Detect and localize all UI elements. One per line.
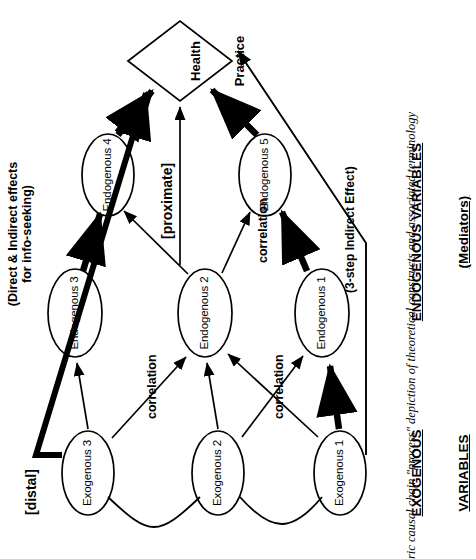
node-label-exogenous-2: Exogenous 2 xyxy=(211,433,224,513)
node-label-exogenous-1: Exogenous 1 xyxy=(333,433,346,513)
stage-tag-proximate: [proximate] xyxy=(160,163,176,239)
group-label-exogenous-line2: VARIABLES xyxy=(456,403,472,543)
note-info-seeking: (Direct & Indirect effects for info-seek… xyxy=(6,119,35,349)
outcome-node-label-line1: Health xyxy=(189,23,204,99)
edge-end2-to-end4 xyxy=(124,211,188,274)
edge-exo3-to-end3 xyxy=(77,363,88,429)
edge-exo2-to-end2 xyxy=(207,363,218,429)
edge-label-correlation-exo2-exo1: correlation xyxy=(272,354,286,419)
edge-end2-to-end5 xyxy=(222,212,250,273)
group-label-endogenous: ENDOGENOUS VARIABLES (Mediators) xyxy=(378,117,476,347)
edge-exo1-to-end1 xyxy=(330,366,339,429)
figure-caption: ric causal chain "process" depiction of … xyxy=(404,0,418,559)
note-three-step-indirect: (3-step Indirect Effect) xyxy=(344,166,357,293)
edge-label-correlation-end2-end1: correlation xyxy=(256,198,270,263)
outcome-node-label: Health Practice xyxy=(160,23,276,99)
node-label-endogenous-3: Endogenous 3 xyxy=(68,270,81,356)
group-label-endogenous-line2: (Mediators) xyxy=(456,117,472,347)
group-label-exogenous: EXOGENOUS VARIABLES xyxy=(378,403,476,543)
edges-exogenous-cross xyxy=(112,354,318,438)
node-label-endogenous-2: Endogenous 2 xyxy=(198,270,211,356)
node-label-endogenous-4: Endogenous 4 xyxy=(101,132,114,218)
node-label-exogenous-3: Exogenous 3 xyxy=(81,433,94,513)
edge-end1-to-end5 xyxy=(282,212,307,271)
node-label-endogenous-1: Endogenous 1 xyxy=(315,270,328,356)
edges-endogenous-mid-to-upper xyxy=(124,211,250,274)
edge-label-correlation-exo3-exo2: correlation xyxy=(145,354,159,419)
arc-corr-exo2-exo1 xyxy=(240,497,322,524)
stage-tag-distal: [distal] xyxy=(24,469,40,515)
arc-corr-exo3-exo2 xyxy=(108,497,200,527)
outcome-node-label-line2: Practice xyxy=(233,23,248,99)
